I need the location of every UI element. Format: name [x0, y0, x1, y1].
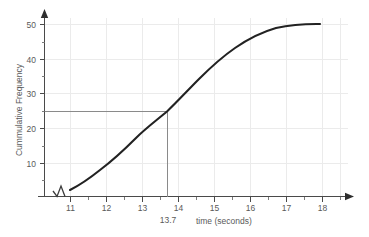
x-tick-label-13: 13 — [138, 203, 148, 213]
x-tick-labels: 11 12 13 14 15 16 17 18 — [66, 203, 327, 213]
x-tick-label-15: 15 — [210, 203, 220, 213]
gridlines-vertical — [71, 18, 341, 196]
x-tick-label-18: 18 — [318, 203, 328, 213]
x-tick-label-11: 11 — [66, 203, 75, 213]
data-series-group — [70, 24, 320, 190]
x-tick-label-17: 17 — [282, 203, 292, 213]
x-tick-label-12: 12 — [102, 203, 112, 213]
y-tick-label-40: 40 — [27, 55, 37, 65]
axis-break-icon — [53, 186, 65, 197]
y-tick-label-50: 50 — [27, 20, 37, 30]
x-axis — [38, 186, 354, 202]
y-tick-label-10: 10 — [27, 159, 37, 169]
x-tick-label-16: 16 — [246, 203, 256, 213]
y-tick-labels: 50 40 30 20 10 — [27, 20, 37, 169]
y-axis-arrow-icon — [41, 9, 48, 18]
x-axis-title: time (seconds) — [196, 216, 252, 226]
annotation-label-13-7: 13.7 — [160, 215, 177, 225]
gridlines-horizontal — [44, 25, 348, 164]
y-axis — [40, 9, 48, 196]
y-tick-label-20: 20 — [27, 124, 37, 134]
chart-canvas: 50 40 30 20 10 11 12 13 14 15 16 17 18 1… — [0, 0, 369, 237]
y-axis-title: Cummulative Frequency — [14, 63, 24, 156]
cumulative-frequency-curve — [70, 24, 320, 190]
y-tick-label-30: 30 — [27, 89, 37, 99]
cumulative-frequency-chart: 50 40 30 20 10 11 12 13 14 15 16 17 18 1… — [0, 0, 369, 237]
x-tick-label-14: 14 — [174, 203, 184, 213]
x-axis-arrow-icon — [345, 193, 354, 200]
